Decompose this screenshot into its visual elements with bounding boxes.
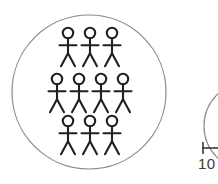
figure-leg-right bbox=[68, 53, 75, 66]
figure-leg-right bbox=[79, 99, 86, 112]
adjacent-group-mark-layer bbox=[202, 142, 218, 154]
adjacent-group-label: 10 bbox=[198, 156, 216, 171]
figure-leg-right bbox=[90, 53, 97, 66]
stick-figure-10 bbox=[104, 116, 121, 154]
figure-head bbox=[63, 28, 73, 38]
stick-figure-6 bbox=[93, 74, 110, 112]
stick-figure-9 bbox=[82, 116, 99, 154]
figure-leg-left bbox=[61, 141, 68, 154]
stick-figure-2 bbox=[82, 28, 99, 66]
figure-leg-right bbox=[101, 99, 108, 112]
figure-head bbox=[63, 116, 73, 126]
figure-leg-left bbox=[105, 53, 112, 66]
figure-leg-left bbox=[105, 141, 112, 154]
figure-head bbox=[85, 28, 95, 38]
figure-leg-right bbox=[123, 99, 130, 112]
figure-leg-left bbox=[94, 99, 101, 112]
figure-leg-left bbox=[50, 99, 57, 112]
figure-leg-right bbox=[112, 53, 119, 66]
diagram-canvas: 10 bbox=[0, 0, 218, 184]
stick-figure-5 bbox=[71, 74, 88, 112]
group-diagram-svg bbox=[0, 0, 218, 184]
figure-leg-left bbox=[116, 99, 123, 112]
figure-head bbox=[96, 74, 106, 84]
figure-leg-right bbox=[68, 141, 75, 154]
figure-leg-left bbox=[83, 53, 90, 66]
figure-head bbox=[107, 116, 117, 126]
stick-figure-7 bbox=[115, 74, 132, 112]
figure-leg-right bbox=[57, 99, 64, 112]
stick-figure-4 bbox=[49, 74, 66, 112]
figure-head bbox=[85, 116, 95, 126]
stick-figure-1 bbox=[60, 28, 77, 66]
figure-leg-left bbox=[61, 53, 68, 66]
stick-figures-layer bbox=[49, 28, 132, 154]
stick-figure-8 bbox=[60, 116, 77, 154]
figure-head bbox=[74, 74, 84, 84]
figure-leg-right bbox=[90, 141, 97, 154]
stick-figure-3 bbox=[104, 28, 121, 66]
figure-leg-left bbox=[83, 141, 90, 154]
figure-leg-right bbox=[112, 141, 119, 154]
figure-head bbox=[52, 74, 62, 84]
figure-head bbox=[118, 74, 128, 84]
figure-leg-left bbox=[72, 99, 79, 112]
figure-head bbox=[107, 28, 117, 38]
